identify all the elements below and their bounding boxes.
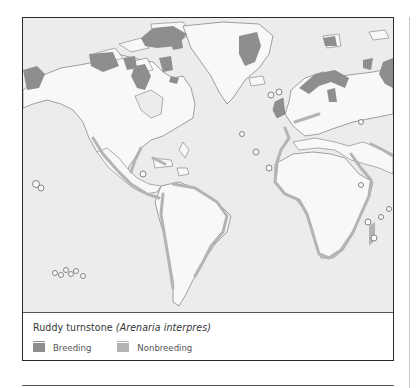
range-map-figure: Ruddy turnstone (Arenaria interpres) Bre… bbox=[22, 17, 394, 361]
world-range-map bbox=[23, 18, 393, 313]
legend-item-breeding: Breeding bbox=[33, 342, 91, 353]
africa-landmass bbox=[275, 152, 373, 258]
nonbreeding-swatch bbox=[117, 343, 129, 352]
next-figure-top-border bbox=[22, 385, 394, 386]
map-legend: Breeding Nonbreeding bbox=[33, 341, 218, 353]
greenland-landmass bbox=[183, 22, 273, 104]
breeding-swatch bbox=[33, 343, 45, 352]
page-column-divider bbox=[409, 17, 410, 388]
species-common-name: Ruddy turnstone bbox=[33, 321, 116, 333]
legend-label-nonbreeding: Nonbreeding bbox=[137, 342, 192, 353]
map-caption: Ruddy turnstone (Arenaria interpres) bbox=[33, 321, 211, 333]
species-scientific-name: (Arenaria interpres) bbox=[116, 321, 211, 333]
legend-label-breeding: Breeding bbox=[53, 342, 91, 353]
world-map-graphic bbox=[23, 18, 393, 312]
legend-item-nonbreeding: Nonbreeding bbox=[117, 342, 192, 353]
